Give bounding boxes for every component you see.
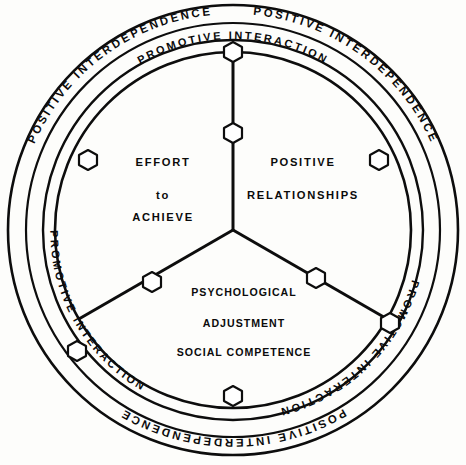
hexagon-node-top-boundary (224, 42, 242, 62)
cooperation-circle-diagram: POSITIVE INTERDEPENDENCE POSITIVE INTERD… (0, 0, 466, 465)
sector-effort-line-3: ACHIEVE (132, 211, 194, 223)
sector-effort-line-1: EFFORT (136, 156, 191, 168)
hexagon-node-lower-left-ring (68, 341, 86, 361)
inner-ring-text-group: PROMOTIVE INTERACTION PROMOTIVE INTERACT… (48, 29, 422, 419)
diagram-root: POSITIVE INTERDEPENDENCE POSITIVE INTERD… (0, 0, 466, 465)
hexagon-node-lower-left-mid (143, 272, 161, 292)
outer-ring-textpath-bottom: POSITIVE INTERDEPENDENCE (118, 407, 349, 449)
hexagon-node-lower-right-ring (381, 313, 399, 333)
hexagon-node-lower-right-mid (307, 268, 325, 288)
outer-ring-textpath-ur: POSITIVE INTERDEPENDENCE (253, 5, 441, 145)
outer-ring-textpath-ul: POSITIVE INTERDEPENDENCE (25, 5, 213, 145)
outer-ring-label-bottom: POSITIVE INTERDEPENDENCE (118, 407, 349, 449)
sector-relationships-line-1: POSITIVE (270, 156, 335, 168)
sector-psychological-line-1: PSYCHOLOGICAL (191, 286, 296, 298)
spoke-group (79, 52, 387, 319)
sector-psychological-line-3: SOCIAL COMPETENCE (177, 346, 312, 358)
sector-psychological-line-2: ADJUSTMENT (203, 317, 285, 329)
sector-label-group-effort: EFFORT to ACHIEVE (132, 156, 194, 223)
hexagon-node-top-mid (224, 123, 242, 143)
sector-label-group-relationships: POSITIVE RELATIONSHIPS (247, 156, 359, 201)
hexagon-node-bottom-ring (224, 386, 242, 406)
sector-relationships-line-2: RELATIONSHIPS (247, 189, 359, 201)
inner-ring-label-lower-left: PROMOTIVE INTERACTION (48, 230, 148, 393)
outer-ring-label-upper-right: POSITIVE INTERDEPENDENCE (253, 5, 441, 145)
inner-ring-textpath-lower-left: PROMOTIVE INTERACTION (48, 230, 148, 393)
sector-effort-line-2: to (156, 189, 170, 201)
hexagon-node-upper-right-ring (370, 150, 388, 170)
hexagon-node-upper-left-ring (79, 150, 97, 170)
sector-label-group-psychological: PSYCHOLOGICAL ADJUSTMENT SOCIAL COMPETEN… (177, 286, 312, 358)
outer-ring-label-upper-left: POSITIVE INTERDEPENDENCE (25, 5, 213, 145)
